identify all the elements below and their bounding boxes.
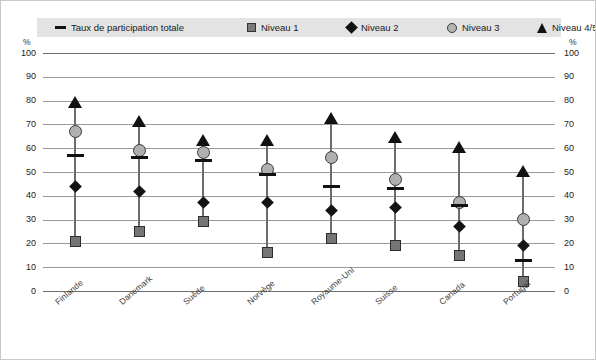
y-axis-tick-left: 70 — [26, 120, 36, 129]
gridline — [43, 148, 555, 149]
gridline — [43, 220, 555, 221]
y-axis-tick-left: 80 — [26, 96, 36, 105]
y-axis-tick-right: 30 — [564, 215, 574, 224]
gridline — [43, 124, 555, 125]
legend-item-label: Taux de participation totale — [71, 23, 184, 33]
legend-item-label: Niveau 3 — [462, 23, 500, 33]
chart-container: Taux de participation totaleNiveau 1Nive… — [0, 0, 596, 360]
data-point-square — [454, 250, 465, 261]
data-point-triangle — [324, 112, 338, 124]
y-axis-tick-right: 40 — [564, 191, 574, 200]
data-point-diamond — [389, 201, 402, 214]
legend-item-4[interactable]: Niveau 3 — [447, 23, 500, 33]
data-point-triangle — [196, 134, 210, 146]
range-stem — [522, 177, 523, 282]
gridline — [43, 101, 555, 102]
data-point-diamond — [197, 197, 210, 210]
data-point-dash — [451, 204, 468, 207]
y-axis-tick-right: 10 — [564, 263, 574, 272]
dash-icon — [55, 26, 66, 29]
y-axis-tick-right: 100 — [564, 49, 579, 58]
y-axis-tick-right: 50 — [564, 168, 574, 177]
x-axis-label: Suède — [181, 283, 207, 307]
data-point-circle — [69, 125, 82, 138]
triangle-icon — [537, 23, 547, 33]
data-point-circle — [389, 173, 402, 186]
data-point-dash — [323, 185, 340, 188]
data-point-triangle — [388, 131, 402, 143]
data-point-dash — [515, 259, 532, 262]
range-stem — [138, 127, 139, 232]
data-point-square — [390, 240, 401, 251]
data-point-diamond — [325, 204, 338, 217]
data-point-dash — [195, 159, 212, 162]
x-axis-label: Danemark — [117, 273, 154, 306]
x-axis-label: Suisse — [373, 282, 399, 306]
diamond-icon — [345, 21, 358, 34]
data-point-square — [262, 247, 273, 258]
plot-area: 1001009090808070706060505040403030202010… — [43, 53, 555, 291]
data-point-square — [326, 233, 337, 244]
x-axis-label: Canada — [437, 279, 467, 306]
y-axis-tick-right: 60 — [564, 144, 574, 153]
legend-item-1[interactable]: Taux de participation totale — [55, 23, 184, 33]
gridline — [43, 196, 555, 197]
data-point-diamond — [517, 239, 530, 252]
data-point-diamond — [453, 220, 466, 233]
circle-icon — [447, 23, 457, 33]
gridline — [43, 172, 555, 173]
data-point-circle — [133, 144, 146, 157]
y-axis-tick-right: 0 — [564, 287, 569, 296]
data-point-square — [134, 226, 145, 237]
y-axis-tick-right: 90 — [564, 72, 574, 81]
gridline — [43, 77, 555, 78]
gridline — [43, 53, 555, 54]
data-point-triangle — [516, 165, 530, 177]
gridline — [43, 243, 555, 244]
y-axis-tick-right: 20 — [564, 239, 574, 248]
square-icon — [247, 23, 256, 32]
range-stem — [330, 124, 331, 238]
range-stem — [394, 143, 395, 245]
data-point-triangle — [260, 134, 274, 146]
y-axis-tick-left: 0 — [31, 287, 36, 296]
y-axis-tick-right: 70 — [564, 120, 574, 129]
y-axis-unit-right: % — [569, 37, 577, 47]
legend-item-5[interactable]: Niveau 4/5 — [537, 23, 596, 33]
data-point-circle — [197, 146, 210, 159]
y-axis-tick-left: 90 — [26, 72, 36, 81]
data-point-diamond — [261, 197, 274, 210]
legend-item-label: Niveau 2 — [361, 23, 399, 33]
y-axis-tick-right: 80 — [564, 96, 574, 105]
legend-item-label: Niveau 4/5 — [552, 23, 596, 33]
y-axis-unit-left: % — [23, 37, 31, 47]
gridline — [43, 291, 555, 292]
data-point-circle — [325, 151, 338, 164]
data-point-triangle — [132, 115, 146, 127]
data-point-dash — [67, 154, 84, 157]
data-point-triangle — [452, 141, 466, 153]
data-point-square — [198, 216, 209, 227]
data-point-dash — [131, 156, 148, 159]
legend-item-2[interactable]: Niveau 1 — [247, 23, 299, 33]
data-point-dash — [387, 187, 404, 190]
data-point-diamond — [69, 180, 82, 193]
gridline — [43, 267, 555, 268]
y-axis-tick-left: 50 — [26, 168, 36, 177]
data-point-triangle — [68, 96, 82, 108]
data-point-square — [70, 236, 81, 247]
data-point-circle — [517, 213, 530, 226]
y-axis-tick-left: 10 — [26, 263, 36, 272]
y-axis-tick-left: 60 — [26, 144, 36, 153]
y-axis-tick-left: 40 — [26, 191, 36, 200]
data-point-dash — [259, 173, 276, 176]
y-axis-tick-left: 100 — [21, 49, 36, 58]
y-axis-tick-left: 30 — [26, 215, 36, 224]
legend-item-label: Niveau 1 — [261, 23, 299, 33]
y-axis-tick-left: 20 — [26, 239, 36, 248]
x-axis-label: Royaume-Uni — [309, 265, 356, 307]
legend-item-3[interactable]: Niveau 2 — [347, 23, 399, 33]
chart-legend: Taux de participation totaleNiveau 1Nive… — [37, 18, 561, 37]
